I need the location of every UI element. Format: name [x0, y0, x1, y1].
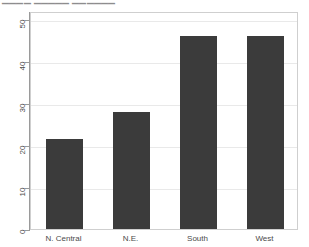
- truncated-header-label: ▁▁▁▁ ▁▁▁▁▁ ▁▁▁▁▁▁: [2, 0, 115, 4]
- truncated-header-text: ▁▁▁▁ ▁▁▁▁▁ ▁▁▁▁▁▁: [0, 0, 309, 7]
- y-axis-tick-label: 0: [18, 230, 27, 247]
- bar: [180, 36, 218, 229]
- x-axis-tick-label: West: [231, 234, 298, 243]
- y-axis-tick-label: 20: [18, 146, 27, 168]
- y-axis-line: [29, 12, 30, 231]
- bar: [46, 139, 84, 229]
- y-axis-tick-label: 30: [18, 104, 27, 126]
- y-axis-tick-label: 50: [18, 20, 27, 42]
- bar-series: [31, 13, 297, 229]
- y-axis-tick-label: 10: [18, 188, 27, 210]
- x-axis-tick-label: N. Central: [30, 234, 97, 243]
- x-axis-tick-label: N.E.: [97, 234, 164, 243]
- bar: [247, 36, 285, 229]
- y-axis-tick-label: 40: [18, 62, 27, 84]
- x-axis-tick-label: South: [164, 234, 231, 243]
- bar-chart: 01020304050 N. CentralN.E.SouthWest: [0, 7, 309, 247]
- plot-panel: [30, 12, 298, 230]
- bar: [113, 112, 151, 229]
